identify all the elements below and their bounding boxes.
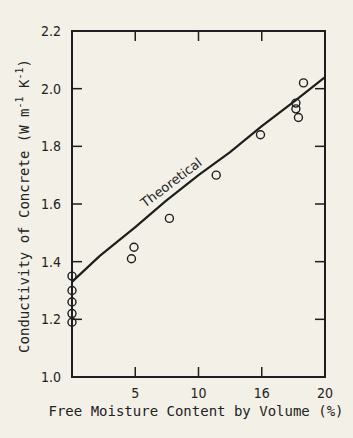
data-point-marker — [212, 171, 220, 179]
data-point-marker — [294, 114, 302, 122]
data-point-marker — [292, 105, 300, 113]
x-tick-label: 20 — [317, 385, 333, 401]
data-point-marker — [299, 79, 307, 87]
x-tick-label: 5 — [131, 385, 139, 401]
theoretical-curve — [72, 77, 325, 282]
y-axis-label-exp2: -1 — [14, 68, 25, 80]
y-tick-label: 1.6 — [41, 196, 61, 212]
y-axis-label-mid: K — [16, 79, 32, 96]
y-axis-label-main: Conductivity of Concrete (W m — [16, 108, 32, 352]
y-axis-label-exp1: -1 — [14, 96, 25, 108]
y-tick-label: 1.4 — [41, 254, 61, 270]
data-point-marker — [130, 243, 138, 251]
y-axis-label: Conductivity of Concrete (W m-1 K-1) — [14, 59, 32, 353]
data-point-marker — [165, 214, 173, 222]
plot-frame — [72, 31, 325, 377]
x-tick-label: 16 — [254, 385, 270, 401]
x-axis-label: Free Moisture Content by Volume (%) — [48, 403, 343, 419]
y-tick-label: 1.2 — [41, 311, 61, 327]
y-axis-label-end: ) — [16, 59, 32, 67]
y-tick-label: 1.0 — [41, 369, 61, 385]
data-point-marker — [256, 131, 264, 139]
y-axis-ticks: 1.01.21.41.61.82.02.2 — [41, 23, 325, 385]
data-point-marker — [127, 255, 135, 263]
chart: 1.01.21.41.61.82.02.2 5101620 Theoretica… — [0, 0, 353, 438]
x-tick-label: 10 — [190, 385, 206, 401]
data-points — [68, 79, 307, 326]
y-tick-label: 2.0 — [41, 81, 61, 97]
theoretical-curve-label: Theoretical — [137, 155, 205, 211]
y-tick-label: 2.2 — [41, 23, 61, 39]
y-tick-label: 1.8 — [41, 138, 61, 154]
